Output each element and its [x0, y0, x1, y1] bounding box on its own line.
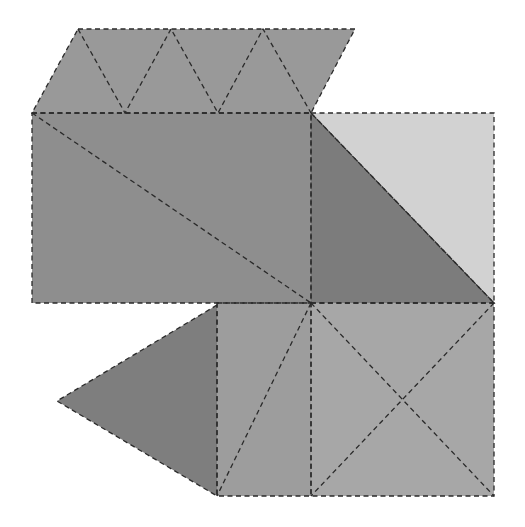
face-main-rectangle [32, 113, 311, 303]
face-left-triangle [57, 305, 217, 496]
face-bottom-square [311, 303, 494, 496]
face-top-parallelogram [32, 29, 355, 113]
polyhedron-net-diagram [0, 0, 525, 527]
faces-group [32, 29, 494, 496]
